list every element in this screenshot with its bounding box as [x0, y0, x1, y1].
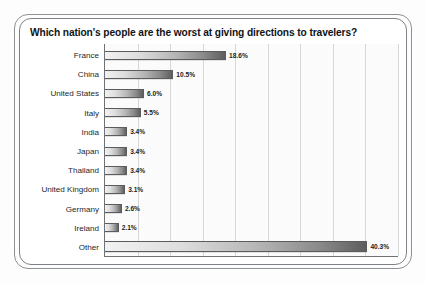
- category-label: Thailand: [28, 161, 104, 180]
- category-label: France: [28, 46, 104, 65]
- bar-row: 2.1%: [105, 218, 398, 237]
- bar-row: 10.5%: [105, 65, 398, 84]
- bar-row: 3.4%: [105, 141, 398, 160]
- bar: [105, 108, 141, 117]
- category-label-text: Japan: [77, 147, 99, 156]
- category-label-text: Ireland: [74, 224, 99, 233]
- bar-value-label: 2.6%: [125, 204, 140, 213]
- bar-row: 40.3%: [105, 237, 398, 256]
- chart-screenshot: Which nation's people are the worst at g…: [0, 0, 426, 283]
- bar: [105, 127, 127, 136]
- bar: [105, 147, 127, 156]
- plot-area: FranceChinaUnited StatesItalyIndiaJapanT…: [28, 44, 398, 257]
- category-label: India: [28, 123, 104, 142]
- category-label: United Kingdom: [28, 180, 104, 199]
- bar: [105, 166, 127, 175]
- category-label: China: [28, 65, 104, 84]
- bar: [105, 70, 173, 79]
- category-label-text: Italy: [84, 109, 99, 118]
- bar: [105, 185, 125, 194]
- bar-value-label: 3.4%: [130, 127, 145, 136]
- category-label: Japan: [28, 142, 104, 161]
- gridline: [398, 44, 399, 256]
- chart-panel: Which nation's people are the worst at g…: [19, 18, 407, 265]
- bar-value-label: 5.5%: [144, 108, 159, 117]
- category-label-text: Germany: [66, 205, 99, 214]
- category-label-text: Thailand: [68, 166, 99, 175]
- category-label: Ireland: [28, 219, 104, 238]
- bar-row: 3.1%: [105, 180, 398, 199]
- bar-row: 5.5%: [105, 103, 398, 122]
- category-label: United States: [28, 84, 104, 103]
- bar-value-label: 40.3%: [370, 242, 389, 251]
- bar-row: 2.6%: [105, 199, 398, 218]
- bar-series: 18.6%10.5%6.0%5.5%3.4%3.4%3.4%3.1%2.6%2.…: [105, 46, 398, 256]
- chart-title: Which nation's people are the worst at g…: [30, 26, 398, 39]
- bar-value-label: 3.4%: [130, 147, 145, 156]
- category-label-text: United States: [50, 89, 99, 98]
- bar-value-label: 6.0%: [147, 89, 162, 98]
- category-axis: FranceChinaUnited StatesItalyIndiaJapanT…: [28, 44, 104, 257]
- category-label: Italy: [28, 104, 104, 123]
- bar-value-label: 3.4%: [130, 166, 145, 175]
- bar-row: 3.4%: [105, 161, 398, 180]
- bar-value-label: 10.5%: [176, 70, 195, 79]
- category-label-text: United Kingdom: [41, 185, 99, 194]
- bar-row: 18.6%: [105, 46, 398, 65]
- category-label-text: France: [74, 51, 99, 60]
- bar-value-label: 2.1%: [122, 223, 137, 232]
- category-label: Other: [28, 238, 104, 257]
- bar: [105, 204, 122, 213]
- category-label-text: Other: [79, 243, 99, 252]
- bar-value-label: 18.6%: [229, 51, 248, 60]
- bar: [105, 241, 367, 252]
- bar-row: 6.0%: [105, 84, 398, 103]
- bar-row: 3.4%: [105, 122, 398, 141]
- bar-value-label: 3.1%: [128, 185, 143, 194]
- category-label: Germany: [28, 200, 104, 219]
- category-label-text: China: [78, 70, 99, 79]
- bar: [105, 89, 144, 98]
- bar: [105, 223, 119, 232]
- category-label-text: India: [81, 128, 99, 137]
- bar: [105, 51, 226, 60]
- plot-canvas: 18.6%10.5%6.0%5.5%3.4%3.4%3.4%3.1%2.6%2.…: [104, 44, 398, 257]
